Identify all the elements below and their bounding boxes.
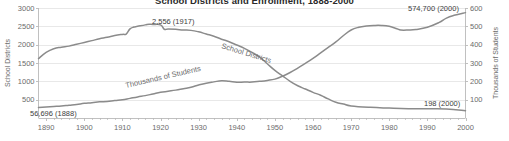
right-tick-label-200: 200 bbox=[470, 77, 483, 86]
right-tick-label-600: 600 bbox=[470, 4, 483, 13]
x-tick-label-1960: 1960 bbox=[305, 123, 322, 132]
x-tick-label-1990: 1990 bbox=[419, 123, 436, 132]
chart-container: School Districts and Enrollment, 1888-20… bbox=[0, 0, 509, 141]
right-tick-label-400: 400 bbox=[470, 40, 483, 49]
axis-ticks bbox=[36, 9, 468, 122]
left-axis-tick-labels: 50010001500200025003000 bbox=[18, 4, 35, 105]
right-tick-label-500: 500 bbox=[470, 22, 483, 31]
x-tick-label-1940: 1940 bbox=[228, 123, 245, 132]
x-tick-label-1980: 1980 bbox=[381, 123, 398, 132]
left-axis-title: School Districts bbox=[4, 38, 11, 87]
left-tick-label-3000: 3000 bbox=[18, 4, 35, 13]
series-label-thousands-of-students: Thousands of Students bbox=[124, 64, 201, 90]
x-axis-tick-labels: 1890190019101920193019401950196019701980… bbox=[38, 123, 474, 132]
chart-plot-area: 50010001500200025003000 1002003004005006… bbox=[0, 0, 509, 141]
annotation-last-districts: 198 (2000) bbox=[424, 99, 461, 108]
right-axis-tick-labels: 100200300400500600 bbox=[470, 4, 483, 105]
data-series bbox=[39, 13, 466, 111]
annotation-last-enrollment: 574,700 (2000) bbox=[408, 4, 459, 13]
series-label-school-districts: School Districts bbox=[220, 41, 272, 65]
left-tick-label-500: 500 bbox=[22, 95, 35, 104]
annotation-peak-districts: 2,556 (1917) bbox=[152, 17, 195, 26]
left-tick-label-2000: 2000 bbox=[18, 40, 35, 49]
right-tick-label-300: 300 bbox=[470, 59, 483, 68]
series-path-districts bbox=[39, 24, 466, 110]
left-tick-label-2500: 2500 bbox=[18, 22, 35, 31]
x-tick-label-2000: 2000 bbox=[457, 123, 474, 132]
left-tick-label-1000: 1000 bbox=[18, 77, 35, 86]
x-tick-label-1890: 1890 bbox=[38, 123, 55, 132]
x-tick-label-1910: 1910 bbox=[114, 123, 131, 132]
x-tick-label-1950: 1950 bbox=[267, 123, 284, 132]
right-axis-title: Thousands of Students bbox=[492, 27, 499, 99]
left-tick-label-1500: 1500 bbox=[18, 59, 35, 68]
right-tick-label-100: 100 bbox=[470, 95, 483, 104]
x-tick-label-1900: 1900 bbox=[76, 123, 93, 132]
annotation-first-enrollment: 56,696 (1888) bbox=[30, 109, 77, 118]
x-tick-label-1920: 1920 bbox=[152, 123, 169, 132]
x-tick-label-1970: 1970 bbox=[343, 123, 360, 132]
x-tick-label-1930: 1930 bbox=[190, 123, 207, 132]
